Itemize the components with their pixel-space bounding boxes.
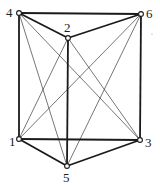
node-label-6: 6 (146, 6, 153, 21)
thin-edge-6-1 (19, 14, 141, 139)
prism-graph-diagram: 123456 (0, 0, 160, 185)
node-3 (138, 138, 143, 143)
node-2 (66, 36, 71, 41)
node-4 (17, 11, 22, 16)
edge-4-2 (19, 13, 68, 38)
edge-2-5 (67, 38, 68, 166)
node-6 (139, 12, 144, 17)
node-label-2: 2 (64, 20, 71, 35)
thin-edge-2-1 (19, 38, 68, 139)
node-1 (17, 137, 22, 142)
edge-4-6 (19, 13, 141, 14)
thin-edge-4-3 (19, 13, 140, 140)
thin-edge-2-3 (68, 38, 140, 140)
node-labels: 123456 (6, 5, 153, 185)
edge-6-3 (140, 14, 141, 140)
edge-1-3 (19, 139, 140, 140)
node-label-3: 3 (145, 135, 152, 150)
stray-dot (151, 33, 152, 34)
node-label-4: 4 (6, 5, 13, 20)
node-label-1: 1 (9, 134, 16, 149)
thin-edges (19, 13, 141, 166)
node-5 (65, 164, 70, 169)
thick-edges (19, 13, 141, 166)
edge-2-6 (68, 14, 141, 38)
node-label-5: 5 (63, 170, 70, 185)
